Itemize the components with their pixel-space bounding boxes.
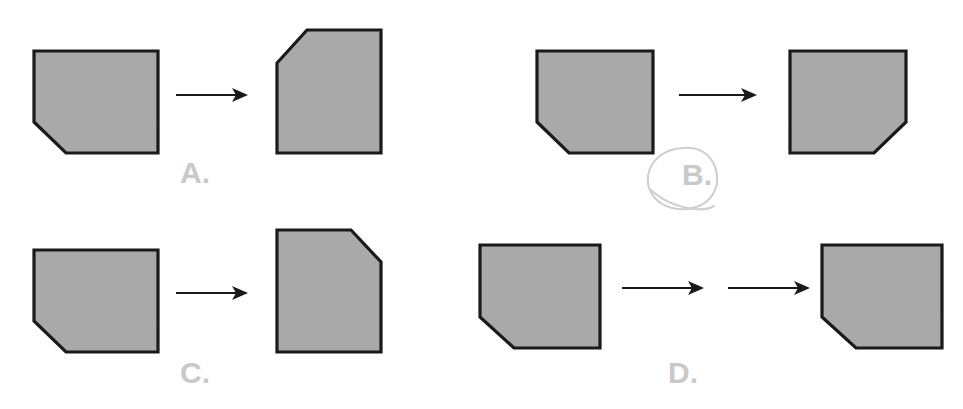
option-b-arrow <box>679 88 757 102</box>
option-a-label: A. <box>180 158 210 188</box>
option-d-arrow-first <box>622 281 704 295</box>
option-d-input-shape <box>480 245 600 348</box>
option-c-output-shape <box>277 230 381 352</box>
option-b-panel[interactable]: B. <box>481 0 963 205</box>
option-d-graphic <box>481 205 963 409</box>
option-d-panel[interactable]: D. <box>481 205 963 409</box>
option-c-arrow <box>176 286 248 300</box>
option-c-panel[interactable]: C. <box>0 205 481 409</box>
option-a-output-shape <box>277 30 381 153</box>
option-d-output-shape <box>822 245 942 348</box>
option-c-label: C. <box>180 358 210 388</box>
option-d-label: D. <box>668 358 698 388</box>
option-b-label: B. <box>682 160 712 190</box>
option-a-arrow <box>176 88 248 102</box>
option-a-input-shape <box>34 51 158 153</box>
option-b-graphic <box>481 0 963 205</box>
figure-canvas: A. B. C. <box>0 0 963 409</box>
option-c-graphic <box>0 205 481 409</box>
option-b-input-shape <box>537 51 653 153</box>
option-a-panel[interactable]: A. <box>0 0 481 205</box>
option-d-arrow-second <box>728 281 810 295</box>
option-a-graphic <box>0 0 481 205</box>
option-c-input-shape <box>34 250 158 352</box>
option-b-output-shape <box>790 51 906 153</box>
